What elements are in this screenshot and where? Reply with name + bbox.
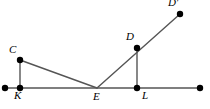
point-label-k: K — [14, 90, 21, 101]
segments-layer — [5, 14, 200, 88]
point-label-d: D — [126, 31, 134, 42]
point-dprime — [177, 11, 183, 17]
point-label-dprime: D′ — [168, 0, 178, 8]
points-layer — [2, 11, 203, 91]
point-label-c: C — [9, 44, 16, 55]
ray-e-through-d-to-dprime — [97, 14, 180, 88]
figure-svg — [0, 0, 210, 109]
point-ray_right_end — [197, 85, 203, 91]
point-ray_left_end — [2, 85, 8, 91]
point-d — [134, 45, 140, 51]
geometry-diagram: KCELDD′ — [0, 0, 210, 109]
point-l — [134, 85, 140, 91]
point-label-e: E — [93, 91, 100, 102]
point-label-l: L — [142, 90, 148, 101]
point-c — [17, 57, 23, 63]
segment-c-e — [20, 60, 97, 88]
